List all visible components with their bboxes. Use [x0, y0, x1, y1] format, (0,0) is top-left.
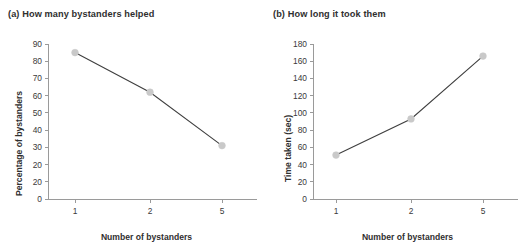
chart-panel-a: (a) How many bystanders helped Percentag…: [0, 0, 263, 248]
data-point-marker: [219, 142, 226, 149]
y-tick-label: 80: [33, 56, 43, 66]
y-tick-label: 100: [293, 108, 307, 118]
panel-b-x-axis-label: Number of bystanders: [263, 232, 526, 242]
x-tick-label: 5: [481, 206, 486, 216]
x-tick-label: 2: [148, 206, 153, 216]
y-tick-label: 60: [298, 142, 308, 152]
panel-a-x-axis-label: Number of bystanders: [0, 232, 263, 242]
y-tick-label: 0: [302, 194, 307, 204]
data-point-marker: [147, 89, 154, 96]
y-tick-label: 40: [33, 125, 43, 135]
chart-panel-b: (b) How long it took them Time taken (se…: [263, 0, 526, 248]
y-tick-label: 180: [293, 39, 307, 49]
y-tick-label: 120: [293, 91, 307, 101]
y-tick-label: 20: [33, 177, 43, 187]
y-tick-label: 20: [298, 177, 308, 187]
y-tick-label: 80: [298, 125, 308, 135]
x-tick-label: 5: [220, 206, 225, 216]
y-tick-label: 20: [33, 160, 43, 170]
panel-a-plot-area: 0202030405060708090125: [0, 0, 263, 248]
data-point-marker: [408, 116, 415, 123]
x-tick-label: 1: [73, 206, 78, 216]
data-series-line: [336, 56, 483, 155]
y-tick-label: 140: [293, 73, 307, 83]
data-point-marker: [480, 53, 487, 60]
y-tick-label: 50: [33, 108, 43, 118]
data-series-line: [75, 53, 222, 146]
x-tick-label: 1: [334, 206, 339, 216]
y-tick-label: 70: [33, 73, 43, 83]
figure-two-panel-line-charts: (a) How many bystanders helped Percentag…: [0, 0, 527, 248]
data-point-marker: [72, 49, 79, 56]
y-tick-label: 30: [33, 142, 43, 152]
y-tick-label: 40: [298, 160, 308, 170]
x-tick-label: 2: [409, 206, 414, 216]
y-tick-label: 90: [33, 39, 43, 49]
panel-b-plot-area: 020406080100120140160180125: [263, 0, 526, 248]
y-tick-label: 160: [293, 56, 307, 66]
data-point-marker: [333, 152, 340, 159]
y-tick-label: 60: [33, 91, 43, 101]
y-tick-label: 0: [37, 194, 42, 204]
